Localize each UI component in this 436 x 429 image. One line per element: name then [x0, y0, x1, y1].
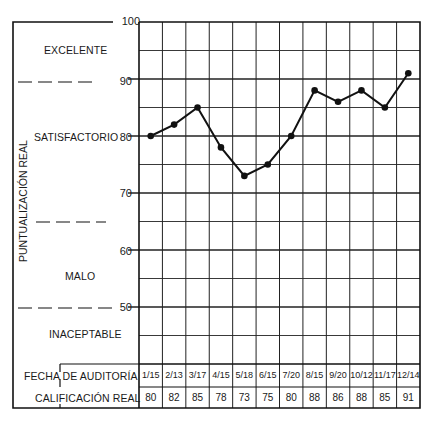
value-cell: 75 — [256, 392, 279, 403]
data-point-marker — [382, 104, 389, 111]
zone-label-excelente: EXCELENTE — [44, 44, 107, 56]
date-cell: 8/15 — [303, 370, 326, 380]
value-cell: 85 — [373, 392, 396, 403]
chart-frame — [13, 22, 420, 408]
value-cell: 82 — [162, 392, 185, 403]
data-point-marker — [288, 133, 295, 140]
date-cell: 2/13 — [162, 370, 185, 380]
value-cell: 86 — [326, 392, 349, 403]
date-cell: 10/12 — [350, 370, 373, 380]
data-point-marker — [218, 144, 225, 151]
data-point-marker — [405, 70, 412, 77]
grid-lines — [128, 22, 420, 408]
value-cell: 85 — [186, 392, 209, 403]
data-point-marker — [241, 173, 248, 180]
data-point-marker — [311, 87, 318, 94]
value-cell: 78 — [209, 392, 232, 403]
y-axis-label: PUNTUALIZACIÓN REAL — [17, 140, 29, 262]
date-cell: 11/17 — [373, 370, 396, 380]
date-cell: 7/20 — [280, 370, 303, 380]
data-point-marker — [358, 87, 365, 94]
data-point-marker — [147, 133, 154, 140]
data-point-marker — [171, 121, 178, 128]
data-point-marker — [335, 99, 342, 106]
date-cell: 5/18 — [233, 370, 256, 380]
value-cell: 80 — [280, 392, 303, 403]
y-tick-60: 60 — [104, 245, 132, 257]
date-cell: 4/15 — [209, 370, 232, 380]
y-tick-100: 100 — [112, 15, 140, 27]
date-cell: 12/14 — [397, 370, 420, 380]
row-label-fecha: FECHA DE AUDITORÍA — [24, 370, 138, 382]
date-cell: 3/17 — [186, 370, 209, 380]
y-tick-70: 70 — [104, 187, 132, 199]
data-point-marker — [194, 104, 201, 111]
value-cell: 88 — [350, 392, 373, 403]
date-cell: 9/20 — [326, 370, 349, 380]
zone-label-malo: MALO — [65, 270, 95, 282]
y-tick-90: 90 — [104, 75, 132, 87]
value-cell: 80 — [139, 392, 162, 403]
zone-label-satisfactorio: SATISFACTORIO — [34, 131, 118, 143]
value-cell: 73 — [233, 392, 256, 403]
date-cell: 6/15 — [256, 370, 279, 380]
y-tick-50: 50 — [104, 301, 132, 313]
value-cell: 88 — [303, 392, 326, 403]
chart-canvas — [0, 0, 436, 429]
row-label-calificacion: CALIFICACIÓN REAL — [35, 392, 141, 404]
date-cell: 1/15 — [139, 370, 162, 380]
data-point-marker — [264, 161, 271, 168]
zone-label-inaceptable: INACEPTABLE — [49, 328, 122, 340]
value-cell: 91 — [397, 392, 420, 403]
